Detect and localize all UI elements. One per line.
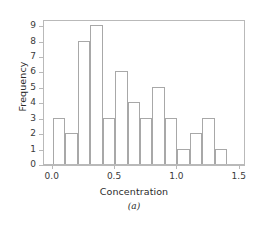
y-tick-label: 4 <box>30 97 36 108</box>
x-axis: 0.00.51.01.5 <box>43 165 245 187</box>
figure-panel-a: 0123456789 0.00.51.01.5 Frequency Concen… <box>0 0 268 227</box>
y-tick-label: 1 <box>30 144 36 155</box>
y-tick-label: 5 <box>30 82 36 93</box>
x-tick-mark <box>176 165 177 169</box>
histogram-bar <box>165 118 177 164</box>
x-tick-mark <box>114 165 115 169</box>
y-tick-label: 9 <box>30 20 36 31</box>
x-tick-label: 1.0 <box>162 171 190 182</box>
histogram-bar <box>190 133 202 164</box>
x-tick-label: 0.5 <box>100 171 128 182</box>
y-axis-label: Frequency <box>17 27 28 147</box>
plot-area <box>43 20 245 165</box>
histogram-bar <box>128 102 140 164</box>
y-tick-label: 7 <box>30 51 36 62</box>
histogram-bar <box>78 41 90 164</box>
histogram-bar <box>103 118 115 164</box>
y-tick-label: 6 <box>30 66 36 77</box>
x-tick-label: 0.0 <box>38 171 66 182</box>
histogram-bars <box>44 21 244 164</box>
y-tick-label: 2 <box>30 128 36 139</box>
histogram-bar <box>202 118 214 164</box>
histogram-bar <box>177 149 189 164</box>
histogram-bar <box>152 87 164 164</box>
x-tick-label: 1.5 <box>225 171 253 182</box>
y-tick-label: 3 <box>30 113 36 124</box>
y-tick-label: 0 <box>30 159 36 170</box>
histogram-bar <box>65 133 77 164</box>
histogram-bar <box>53 118 65 164</box>
histogram-bar <box>215 149 227 164</box>
histogram-bar <box>140 118 152 164</box>
x-tick-mark <box>52 165 53 169</box>
x-tick-mark <box>239 165 240 169</box>
panel-label: (a) <box>0 201 268 211</box>
histogram-bar <box>90 25 102 164</box>
histogram-bar <box>115 71 127 164</box>
y-tick-label: 8 <box>30 36 36 47</box>
x-axis-label: Concentration <box>0 186 268 197</box>
